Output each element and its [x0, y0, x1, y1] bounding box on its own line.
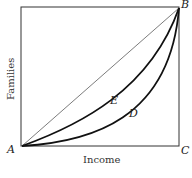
equality-diagonal: [22, 8, 179, 146]
lorenz-diagram: A B C E D Income Families: [0, 0, 192, 178]
curve-d-label: D: [128, 107, 138, 120]
y-axis-label: Families: [5, 58, 16, 100]
point-c-label: C: [181, 144, 190, 157]
frame: [21, 7, 179, 146]
x-axis-label: Income: [83, 154, 120, 165]
curve-e-label: E: [109, 94, 118, 107]
point-b-label: B: [180, 0, 189, 11]
point-a-label: A: [6, 143, 15, 156]
